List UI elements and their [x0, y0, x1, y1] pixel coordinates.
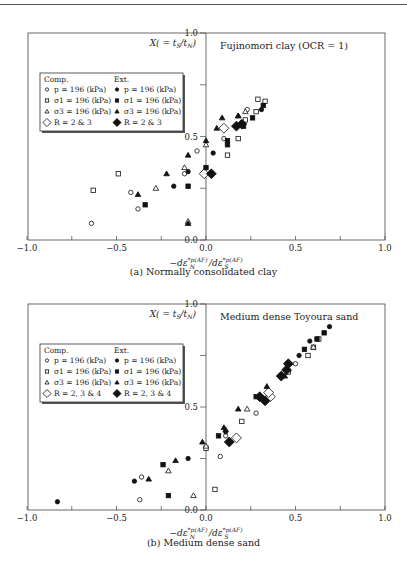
data-point	[219, 123, 229, 133]
data-point	[182, 165, 188, 170]
data-point	[143, 203, 147, 207]
data-point	[293, 362, 297, 366]
legend-entry-label: p = 196 (kPa)	[124, 356, 176, 365]
data-point	[89, 221, 93, 225]
data-point	[195, 149, 199, 153]
chart-panel-a: −1.0−0.50.00.51.00.00.51.0X( = tS/tN)−dε…	[0, 0, 407, 290]
x-tick-label: −0.5	[106, 513, 127, 523]
data-point	[322, 331, 326, 335]
data-point	[225, 138, 229, 142]
data-point	[244, 406, 250, 411]
legend-entry-label: R = 2, 3 & 4	[54, 389, 101, 398]
data-point	[302, 347, 306, 351]
plot-frame	[28, 33, 385, 240]
x-tick-label: 0.5	[289, 243, 303, 253]
legend-entry-label: σ3 = 196 (kPa)	[54, 378, 111, 387]
y-tick-label: 1.0	[184, 28, 198, 38]
legend-marker-square-filled	[115, 370, 118, 373]
data-point	[164, 171, 170, 176]
data-point	[136, 207, 140, 211]
x-tick-label: −0.5	[106, 243, 127, 253]
data-point	[55, 500, 59, 504]
legend-entry-label: σ3 = 196 (kPa)	[124, 107, 181, 116]
data-point	[306, 353, 310, 357]
data-point	[235, 113, 241, 118]
x-tick-label: −1.0	[17, 513, 38, 523]
data-point	[240, 419, 244, 423]
legend-header-ext: Ext.	[114, 75, 129, 84]
series-diamond-filled	[224, 359, 293, 447]
series-square-open	[204, 337, 321, 492]
x-tick-label: 1.0	[378, 243, 392, 253]
y-axis-label: X( = tS/tN)	[149, 38, 197, 49]
data-point	[223, 430, 227, 434]
legend-entry-label: σ3 = 196 (kPa)	[124, 378, 181, 387]
chart-title: Medium dense Toyoura sand	[220, 311, 358, 322]
data-point	[129, 190, 133, 194]
caption-panel-b: (b) Medium dense sand	[0, 537, 407, 548]
data-point	[256, 97, 260, 101]
data-point	[225, 153, 229, 157]
legend-entry-label: σ1 = 196 (kPa)	[54, 96, 111, 105]
legend-entry-label: σ1 = 196 (kPa)	[124, 367, 181, 376]
legend: Comp.Ext.p = 196 (kPa)σ1 = 196 (kPa)σ3 =…	[40, 73, 185, 133]
data-point	[166, 468, 172, 473]
data-point	[146, 476, 152, 481]
legend-entry-label: R = 2 & 3	[54, 118, 92, 127]
legend-entry-label: σ3 = 196 (kPa)	[54, 107, 111, 116]
data-point	[264, 384, 270, 389]
x-tick-label: 0.0	[199, 513, 213, 523]
x-tick-label: 0.0	[199, 243, 213, 253]
y-tick-label: 1.0	[184, 299, 198, 309]
data-point	[236, 136, 240, 140]
data-point	[91, 188, 95, 192]
data-point	[186, 456, 190, 460]
plot-frame	[28, 304, 385, 510]
legend-entry-label: σ1 = 196 (kPa)	[124, 96, 181, 105]
legend-entry-label: p = 196 (kPa)	[54, 356, 106, 365]
legend-marker-square-filled	[115, 99, 118, 102]
legend-marker-circle-open	[45, 88, 48, 91]
legend-marker-circle-filled	[115, 88, 118, 91]
data-point	[250, 116, 254, 120]
data-point	[219, 115, 225, 120]
x-tick-label: 1.0	[378, 513, 392, 523]
legend-entry-label: p = 196 (kPa)	[54, 85, 106, 94]
data-point	[261, 103, 265, 107]
data-point	[186, 169, 190, 173]
data-point	[138, 498, 142, 502]
data-point	[315, 337, 319, 341]
legend-entry-label: σ1 = 196 (kPa)	[54, 367, 111, 376]
y-tick-label: 0.0	[184, 505, 198, 515]
data-point	[139, 475, 143, 479]
chart-panel-b: −1.0−0.50.00.51.00.00.51.0X( = tS/tN)−dε…	[0, 270, 407, 554]
data-point	[173, 458, 179, 463]
x-tick-label: 0.5	[289, 513, 303, 523]
x-tick-label: −1.0	[17, 243, 38, 253]
chart-title: Fujinomori clay (OCR = 1)	[220, 40, 348, 51]
data-point	[259, 107, 263, 111]
legend-marker-square-open	[45, 99, 48, 102]
data-point	[135, 192, 141, 197]
data-point	[235, 406, 241, 411]
y-tick-label: 0.5	[184, 132, 198, 142]
legend-header-comp: Comp.	[44, 346, 69, 355]
data-point	[216, 434, 220, 438]
y-axis-label: X( = tS/tN)	[149, 309, 197, 320]
data-point	[308, 339, 312, 343]
data-point	[200, 439, 206, 444]
y-tick-label: 0.0	[184, 235, 198, 245]
data-point	[172, 184, 176, 188]
y-tick-label: 0.5	[184, 402, 198, 412]
data-point	[327, 324, 331, 328]
data-point	[206, 169, 216, 179]
legend-marker-circle-filled	[115, 359, 118, 362]
data-point	[211, 151, 215, 155]
legend-entry-label: R = 2, 3 & 4	[124, 389, 171, 398]
data-point	[153, 185, 159, 190]
data-point	[204, 165, 208, 169]
legend-entry-label: p = 196 (kPa)	[124, 85, 176, 94]
legend-header-ext: Ext.	[114, 346, 129, 355]
data-point	[191, 493, 197, 498]
data-point	[185, 152, 191, 157]
